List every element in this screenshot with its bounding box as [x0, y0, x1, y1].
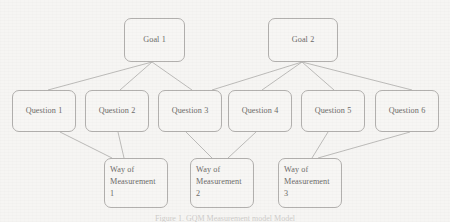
node-q3[interactable]: Question 3 — [158, 90, 222, 132]
figure-caption: Figure 1. GQM Measurement model Model — [0, 213, 450, 222]
edge-q4-m2 — [228, 132, 256, 158]
node-label: Way ofMeasurement2 — [196, 164, 242, 200]
node-m2[interactable]: Way ofMeasurement2 — [190, 158, 254, 208]
node-q4[interactable]: Question 4 — [228, 90, 292, 132]
edge-q2-m1 — [118, 132, 124, 158]
node-label-line: 3 — [284, 188, 330, 200]
node-m1[interactable]: Way ofMeasurement1 — [104, 158, 168, 208]
edge-q5-m3 — [312, 132, 328, 158]
edge-q3-m2 — [186, 132, 212, 158]
node-label-line: 1 — [110, 188, 156, 200]
edge-g2-q3 — [212, 62, 302, 90]
node-label: Goal 1 — [143, 35, 166, 46]
node-label-line: Way of — [284, 164, 330, 176]
node-label-line: Measurement — [196, 176, 242, 188]
edge-g2-q4 — [262, 62, 302, 90]
node-label: Question 2 — [99, 106, 136, 117]
node-q5[interactable]: Question 5 — [301, 90, 365, 132]
edge-g1-q3 — [152, 62, 192, 90]
node-label-line: Way of — [196, 164, 242, 176]
node-label-line: 2 — [196, 188, 242, 200]
node-label: Way ofMeasurement1 — [110, 164, 156, 200]
node-label-line: Way of — [110, 164, 156, 176]
node-m3[interactable]: Way ofMeasurement3 — [278, 158, 342, 208]
diagram-canvas: Goal 1Goal 2Question 1Question 2Question… — [0, 0, 450, 222]
node-label-line: Measurement — [110, 176, 156, 188]
node-q2[interactable]: Question 2 — [85, 90, 149, 132]
node-q1[interactable]: Question 1 — [12, 90, 76, 132]
node-q6[interactable]: Question 6 — [375, 90, 439, 132]
edge-q6-m3 — [318, 132, 410, 158]
edge-q1-m1 — [60, 132, 112, 158]
node-label: Question 3 — [172, 106, 209, 117]
node-g1[interactable]: Goal 1 — [124, 18, 185, 62]
node-label: Question 4 — [242, 106, 279, 117]
node-label: Question 6 — [389, 106, 426, 117]
node-g2[interactable]: Goal 2 — [268, 18, 338, 62]
node-label: Way ofMeasurement3 — [284, 164, 330, 200]
node-label: Goal 2 — [292, 35, 315, 46]
node-label: Question 1 — [26, 106, 63, 117]
node-label: Question 5 — [315, 106, 352, 117]
node-label-line: Measurement — [284, 176, 330, 188]
